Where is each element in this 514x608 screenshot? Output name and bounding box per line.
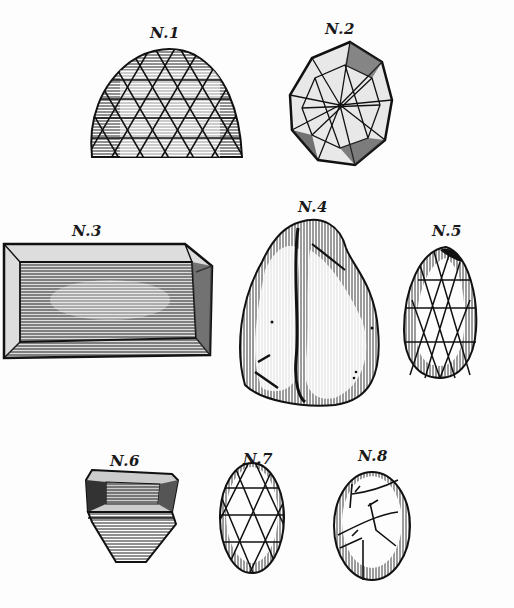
engraving-plate: N.1 N.2 [0, 0, 514, 608]
